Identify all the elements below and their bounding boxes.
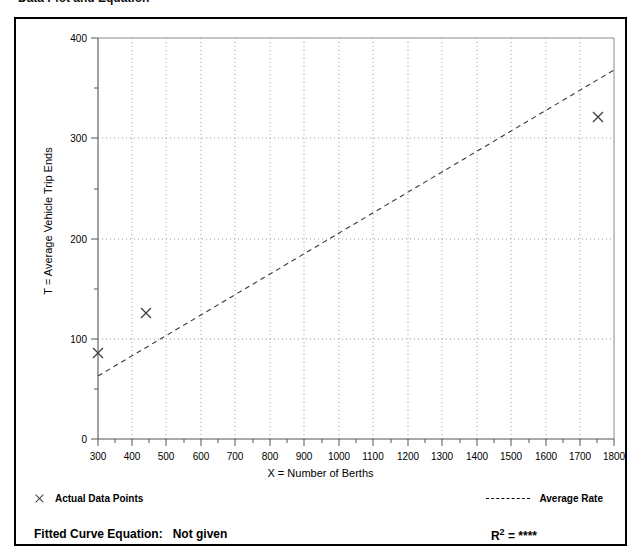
- top-header-strip: Data Plot and Equation: [0, 0, 643, 14]
- r-squared-equals: =: [508, 529, 515, 543]
- page-title: Data Plot and Equation: [18, 0, 149, 5]
- x-tick-label: 1100: [362, 451, 384, 462]
- y-tick-label: 100: [70, 334, 87, 345]
- x-tick-label: 300: [90, 451, 107, 462]
- chart-svg: 400 300 200 100 0: [16, 19, 625, 489]
- x-tick-label: 1600: [535, 451, 558, 462]
- equation-row: Fitted Curve Equation: Not given R2 = **…: [16, 527, 625, 549]
- x-axis-title: X = Number of Berths: [16, 467, 625, 479]
- data-point-marker: [141, 308, 151, 318]
- x-tick-label: 1800: [603, 451, 625, 462]
- r-squared-value: R2 = ****: [491, 527, 537, 543]
- x-tick-label: 1300: [431, 451, 454, 462]
- x-tick-label: 800: [262, 451, 279, 462]
- y-tick-label: 300: [70, 133, 87, 144]
- x-tick-label: 1200: [397, 451, 420, 462]
- y-tick-label: 200: [70, 234, 87, 245]
- legend-item-actual-data-points: Actual Data Points: [34, 493, 143, 504]
- chart-legend: Actual Data Points Average Rate: [16, 493, 625, 519]
- data-point-marker: [593, 112, 603, 122]
- legend-item-average-rate: Average Rate: [486, 493, 603, 504]
- y-axis-title: T = Average Vehicle Trip Ends: [42, 71, 54, 371]
- x-tick-label: 500: [158, 451, 175, 462]
- y-axis-tick-labels: 400 300 200 100 0: [70, 33, 87, 445]
- x-marker-icon: [34, 493, 45, 504]
- x-tick-label: 1500: [500, 451, 523, 462]
- x-tick-label: 1400: [466, 451, 489, 462]
- axes: [98, 38, 614, 439]
- average-rate-trend-line: [98, 70, 614, 376]
- legend-label-actual-data-points: Actual Data Points: [55, 493, 143, 504]
- legend-label-average-rate: Average Rate: [539, 493, 603, 504]
- x-axis-ticks: [98, 439, 614, 446]
- x-tick-label: 700: [227, 451, 244, 462]
- fitted-curve-label: Fitted Curve Equation:: [34, 527, 163, 541]
- r-squared-exponent: 2: [500, 527, 505, 537]
- data-point-markers: [93, 112, 603, 358]
- x-tick-label: 600: [193, 451, 210, 462]
- chart-panel: 400 300 200 100 0: [14, 17, 627, 546]
- y-axis-ticks: [91, 38, 98, 439]
- plot-area: 400 300 200 100 0: [16, 19, 625, 489]
- y-tick-label: 0: [81, 434, 87, 445]
- x-axis-tick-labels: 300 400 500 600 700 800 900 1000 1100 12…: [90, 451, 625, 462]
- r-squared-asterisks: ****: [518, 529, 537, 543]
- r-squared-label: R: [491, 529, 500, 543]
- fitted-curve-value: Not given: [173, 527, 228, 541]
- plot-frame: [98, 38, 614, 439]
- x-tick-label: 1700: [569, 451, 592, 462]
- x-tick-label: 900: [296, 451, 313, 462]
- fitted-curve-equation: Fitted Curve Equation: Not given: [34, 527, 227, 541]
- y-tick-label: 400: [70, 33, 87, 44]
- x-tick-label: 1000: [328, 451, 351, 462]
- dashed-line-icon: [486, 498, 530, 500]
- x-tick-label: 400: [124, 451, 141, 462]
- grid-lines: [98, 38, 614, 439]
